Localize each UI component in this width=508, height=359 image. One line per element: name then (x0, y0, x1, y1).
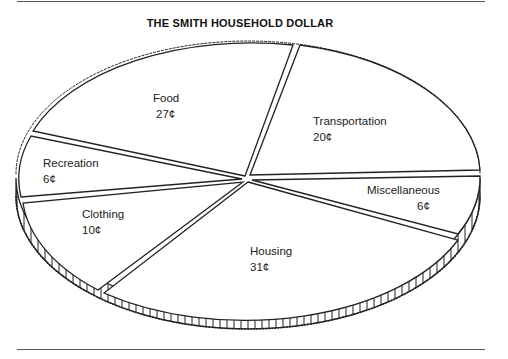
label-recreation: Recreation 6¢ (43, 155, 99, 187)
label-food: Food 27¢ (153, 90, 179, 122)
bottom-rule (17, 349, 485, 350)
label-clothing: Clothing 10¢ (82, 206, 124, 238)
label-transportation: Transportation 20¢ (313, 113, 387, 145)
label-housing: Housing 31¢ (250, 243, 292, 275)
label-miscellaneous: Miscellaneous 6¢ (367, 182, 440, 214)
